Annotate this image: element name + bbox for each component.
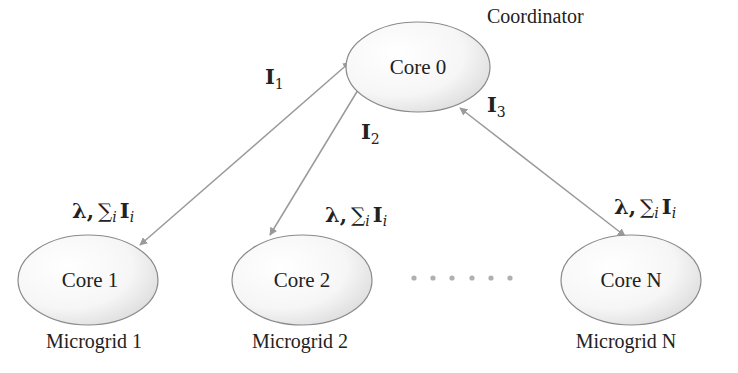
link-core1-core0 [140, 62, 350, 245]
worker-node-label: Core 1 [62, 268, 119, 292]
microgrid-label: Microgrid 2 [252, 330, 348, 353]
link-coreN-core0 [460, 108, 625, 236]
worker-node-label: Core N [600, 268, 661, 292]
coordinator-node: Core 0 [346, 22, 490, 112]
worker-node-label: Core 2 [274, 268, 331, 292]
ellipsis-dots [411, 275, 512, 280]
diagram-canvas: Core 0 Coordinator Core 1 Microgrid 1 Co… [0, 0, 738, 373]
coordinator-node-label: Core 0 [390, 55, 447, 79]
worker-node-n: Core N [561, 235, 701, 325]
downlink-label-2: λ,∑iIi [325, 202, 387, 229]
microgrid-label: Microgrid 1 [46, 330, 142, 353]
downlink-label-1: λ,∑iIi [72, 198, 134, 225]
uplink-label-2: I2 [361, 119, 380, 147]
coordinator-role-label: Coordinator [487, 5, 584, 27]
link-core2-core0 [270, 85, 361, 235]
microgrid-label: Microgrid N [576, 330, 677, 353]
uplink-label-3: I3 [487, 92, 506, 120]
downlink-label-n: λ,∑iIi [614, 194, 676, 221]
worker-node-1: Core 1 [18, 235, 158, 325]
uplink-label-1: I1 [265, 64, 284, 92]
worker-node-2: Core 2 [232, 235, 372, 325]
